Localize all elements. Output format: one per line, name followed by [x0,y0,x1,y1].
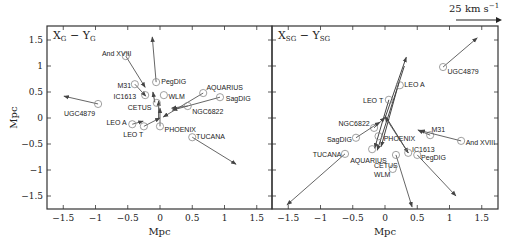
galaxy-marker [396,82,403,89]
panel-title: XG − YG [53,29,96,43]
galaxy-label: WLM [168,93,185,100]
galaxy-label: PHOENIX [384,135,416,142]
y-tick-label: −1.5 [21,191,43,201]
galaxy-point: WLM [160,92,185,100]
panel-title: XSG − YSG [278,29,331,43]
velocity-arrow [64,96,98,104]
galaxy-label: CETUS [128,104,152,111]
y-tick-label: −0.5 [21,139,43,149]
galaxy-label: LEO A [106,119,127,126]
galaxy-point: M31 [418,126,445,139]
figure: −1.5−1−0.500.511.51.510.50−0.5−1−1.5MpcM… [0,0,508,243]
galaxy-point: LEO T [363,96,392,104]
y-tick-label: 0.5 [29,87,44,97]
galaxy-point: LEO A [106,119,143,128]
galaxy-label: LEO T [363,97,384,104]
galaxy-label: UGC4879 [448,68,479,75]
velocity-arrow [385,57,406,118]
galaxy-point: PegDIG [414,151,456,196]
x-tick-label: −1.5 [277,213,299,223]
x-tick-label: 1 [447,213,453,223]
galaxy-marker [160,92,167,99]
galaxy-label: IC1613 [114,93,137,100]
velocity-arrow [443,38,477,67]
y-tick-label: −1 [30,165,43,175]
velocity-arrow [396,155,412,207]
plot-frame [47,26,272,209]
galaxy-label: SagDIG [226,95,251,103]
galaxy-point: UGC4879 [64,96,102,117]
galaxy-point: PegDIG [152,37,186,86]
galaxy-label: TUCANA [313,151,342,158]
galaxy-point: LEO T [123,118,160,138]
x-axis-label: Mpc [148,226,171,237]
x-tick-label: 0 [382,213,388,223]
galaxy-point: TUCANA [287,150,349,205]
velocity-arrow [192,137,236,164]
galaxy-label: NGC6822 [339,120,370,127]
x-tick-label: 0.5 [185,213,200,223]
x-tick-label: 1.5 [475,213,490,223]
x-tick-label: −0.5 [342,213,364,223]
galaxy-label: AQUARIUS [206,84,243,92]
galaxy-marker [369,146,376,153]
galaxy-label: M31 [431,126,445,133]
galaxy-label: PHOENIX [165,126,197,133]
x-tick-label: 0.5 [410,213,425,223]
panel-supergalactic: −1.5−1−0.500.511.5MpcXSG − YSGUGC4879LEO… [272,26,498,237]
x-tick-label: 1 [222,213,228,223]
velocity-arrow [152,37,156,82]
galaxy-point: TUCANA [189,133,236,165]
galaxy-marker [189,134,196,141]
galaxy-label: NGC6822 [192,108,223,115]
galaxy-label: PegDIG [161,78,186,86]
galaxy-point: IC1613 [114,92,149,100]
galaxy-point: NGC6822 [339,117,385,131]
galaxy-label: PegDIG [421,154,446,162]
galaxy-label: WLM [374,171,391,178]
galaxy-label: LEO T [123,131,144,138]
galaxy-label: SagDIG [327,136,352,144]
velocity-arrow [417,155,456,196]
y-tick-label: 1 [37,61,43,71]
velocity-arrow [144,118,160,126]
x-tick-label: −1 [314,213,327,223]
panel-galactic: −1.5−1−0.500.511.51.510.50−0.5−1−1.5MpcM… [8,26,272,237]
x-tick-label: −0.5 [117,213,139,223]
x-tick-label: −1.5 [52,213,74,223]
y-axis-label: Mpc [8,106,19,129]
galaxy-point: LEO A [396,81,425,89]
y-tick-label: 0 [37,113,43,123]
galaxy-label: And XVIII [102,50,132,57]
velocity-arrow [287,154,345,205]
galaxy-marker [153,99,160,106]
x-tick-label: 1.5 [250,213,265,223]
galaxy-point: CETUS [128,99,161,110]
galaxy-marker [392,151,399,158]
x-tick-label: −1 [89,213,102,223]
galaxy-label: LEO A [404,81,425,88]
galaxy-label: TUCANA [196,133,225,140]
galaxy-label: M31 [117,82,131,89]
galaxy-label: And XVIII [466,139,496,146]
galaxy-point: UGC4879 [439,38,478,75]
x-tick-label: 0 [157,213,163,223]
galaxy-marker [129,121,136,128]
y-tick-label: 1.5 [29,35,44,45]
galaxy-point: PHOENIX [156,108,196,133]
x-axis-label: Mpc [374,226,397,237]
galaxy-label: UGC4879 [64,110,95,117]
